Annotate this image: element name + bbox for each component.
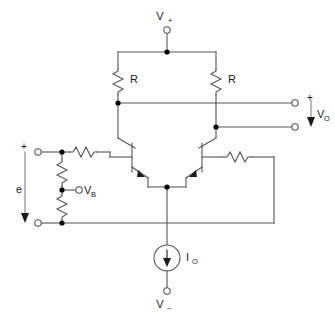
label-io-sub: O xyxy=(192,257,198,266)
resistor-rc-right-zigzag xyxy=(211,69,221,95)
label-resistor-right: R xyxy=(228,73,236,85)
terminal-vplus[interactable] xyxy=(164,27,170,33)
schematic-svg: V + R R + V O + e V B I O V – xyxy=(0,0,335,314)
resistor-rb-left-zigzag xyxy=(70,147,97,157)
terminal-vout-plus[interactable] xyxy=(292,100,298,106)
resistor-rc-left-zigzag xyxy=(113,69,123,95)
label-vo-sub: O xyxy=(324,114,330,123)
node-left-collector xyxy=(115,100,120,105)
terminal-vminus[interactable] xyxy=(164,288,170,294)
input-arrow-head xyxy=(21,213,29,223)
label-vminus: V xyxy=(156,298,164,310)
label-vplus-sign: + xyxy=(168,16,173,25)
resistor-rb-right-zigzag xyxy=(224,152,251,162)
q1-emitter-arrowhead xyxy=(137,170,145,177)
label-vminus-sign: – xyxy=(167,303,172,312)
node-right-collector xyxy=(213,124,218,129)
label-output-plus: + xyxy=(307,92,313,103)
terminal-input-minus[interactable] xyxy=(35,220,41,226)
terminal-vb[interactable] xyxy=(76,187,82,193)
label-input-plus: + xyxy=(21,141,27,152)
label-io: I xyxy=(186,251,189,263)
terminal-input-plus[interactable] xyxy=(35,149,41,155)
label-vb-sub: B xyxy=(91,190,96,199)
output-arrow-head xyxy=(307,117,315,127)
label-vplus: V xyxy=(156,10,164,22)
label-resistor-left: R xyxy=(130,73,138,85)
label-input-e: e xyxy=(16,183,22,195)
node-input-bottom xyxy=(59,220,64,225)
circuit-diagram-canvas: V + R R + V O + e V B I O V – xyxy=(0,0,335,314)
resistor-div-lower-zigzag xyxy=(57,194,67,220)
node-vplus-top xyxy=(164,49,169,54)
node-vb-tap xyxy=(59,187,64,192)
terminal-vout-minus[interactable] xyxy=(292,124,298,130)
resistor-div-upper-zigzag xyxy=(57,160,67,186)
node-emitter-tail xyxy=(164,184,169,189)
node-input-top xyxy=(59,149,64,154)
q2-emitter-arrowhead xyxy=(189,170,197,177)
